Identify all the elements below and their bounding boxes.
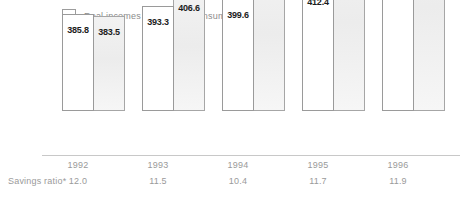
x-tick-label-1994: 1994 — [206, 160, 270, 170]
x-axis-line — [42, 155, 460, 156]
x-tick-label-1993: 1993 — [126, 160, 190, 170]
x-tick-label-1996: 1996 — [366, 160, 430, 170]
savings-ratio-value-1993: 11.5 — [126, 176, 190, 186]
bar-consumer-spending-1994: 427.4 — [253, 0, 285, 111]
bar-real-incomes-1996: 427.7 — [382, 0, 414, 111]
savings-ratio-value-1996: 11.9 — [366, 176, 430, 186]
bar-value-real-incomes-1995: 412.4 — [303, 0, 333, 7]
bar-value-consumer-spending-1993: 406.6 — [174, 3, 204, 13]
savings-ratio-value-1995: 11.7 — [286, 176, 350, 186]
bar-value-real-incomes-1992: 385.8 — [63, 25, 93, 35]
savings-ratio-value-1992: 12.0 — [46, 176, 110, 186]
x-axis-year-row: 1992 1993 1994 1995 1996 — [0, 160, 471, 174]
x-tick-label-1992: 1992 — [46, 160, 110, 170]
plot-area: 385.8 383.5 393.3 406.6 399.6 427.4 — [0, 0, 471, 156]
bar-real-incomes-1994: 399.6 — [222, 0, 254, 111]
bar-value-real-incomes-1993: 393.3 — [143, 17, 173, 27]
bar-value-real-incomes-1994: 399.6 — [223, 10, 253, 20]
bar-value-consumer-spending-1992: 383.5 — [94, 27, 124, 37]
bar-consumer-spending-1996: 473.5 — [413, 0, 445, 111]
bar-consumer-spending-1995: 446.2 — [333, 0, 365, 111]
savings-ratio-value-1994: 10.4 — [206, 176, 270, 186]
savings-ratio-row: Savings ratio* 12.0 11.5 10.4 11.7 11.9 — [0, 176, 471, 190]
x-tick-label-1995: 1995 — [286, 160, 350, 170]
grouped-bar-chart: Real incomes Consumer spending 385.8 383… — [0, 0, 471, 200]
bar-real-incomes-1992: 385.8 — [62, 14, 94, 111]
bar-real-incomes-1993: 393.3 — [142, 6, 174, 111]
bar-consumer-spending-1992: 383.5 — [93, 16, 125, 111]
bar-real-incomes-1995: 412.4 — [302, 0, 334, 111]
bar-consumer-spending-1993: 406.6 — [173, 0, 205, 111]
